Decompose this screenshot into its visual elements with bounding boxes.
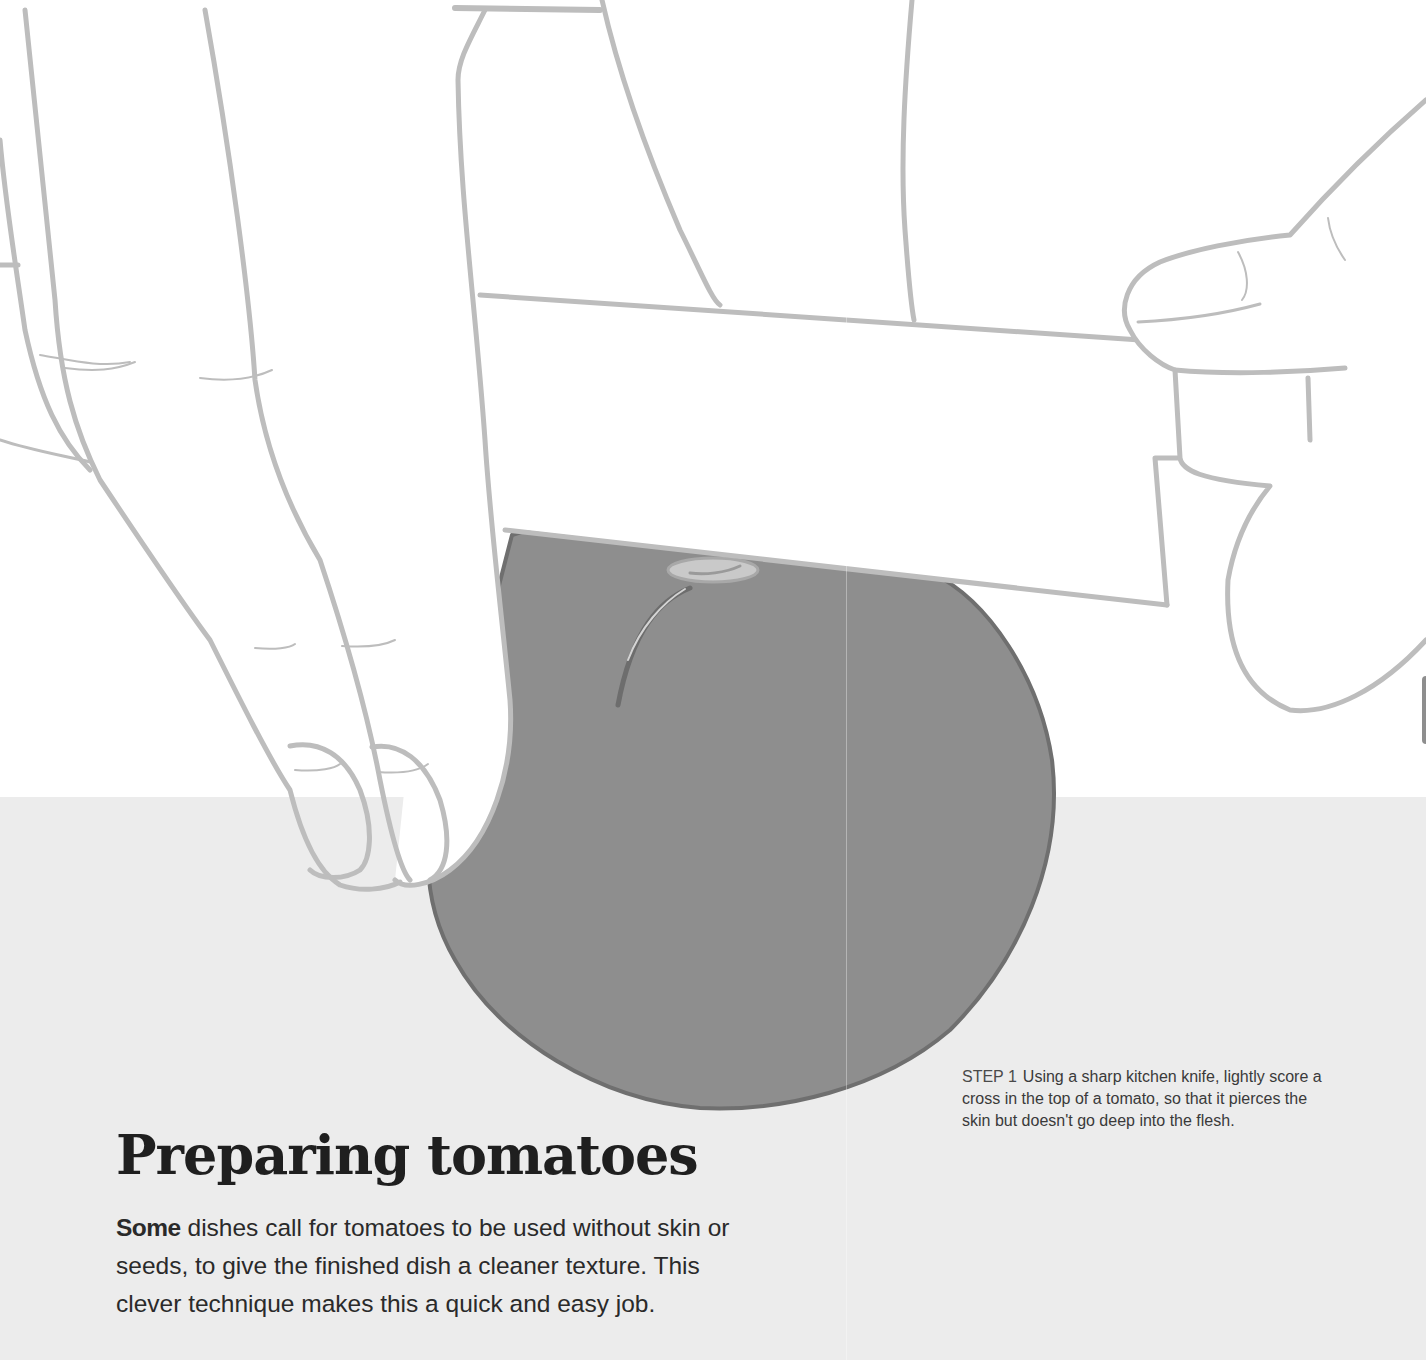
cookbook-page: Preparing tomatoes Some dishes call for … (0, 0, 1426, 1360)
tomato-icon (428, 524, 1054, 1108)
page-title: Preparing tomatoes (116, 1128, 698, 1182)
step-1-caption: STEP 1Using a sharp kitchen knife, light… (962, 1066, 1332, 1132)
intro-text: dishes call for tomatoes to be used with… (116, 1214, 730, 1317)
step-label: STEP 1 (962, 1068, 1017, 1085)
page-fold-line (846, 0, 847, 1360)
intro-paragraph: Some dishes call for tomatoes to be used… (116, 1209, 736, 1323)
intro-lead-word: Some (116, 1214, 181, 1241)
upper-hand-outline-icon (602, 0, 914, 320)
right-hand-icon (1125, 100, 1426, 740)
